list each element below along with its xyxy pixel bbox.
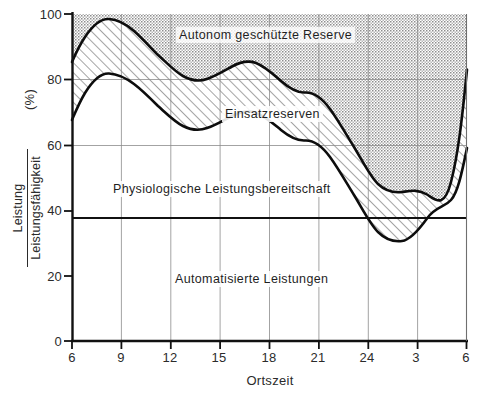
x-axis-ticks <box>72 341 467 349</box>
region-label-physiological-readiness: Physiologische Leistungsbereitschaft <box>110 181 334 197</box>
region-label-operational-reserves: Einsatzreserven <box>222 106 323 122</box>
region-label-automated-performance: Automatisierte Leistungen <box>172 271 331 287</box>
performance-curve-chart: (%) Leistung Leistungsfähigkeit 100 80 6… <box>0 0 482 396</box>
plot-canvas <box>0 0 482 396</box>
region-label-autonomous-reserve: Autonom geschützte Reserve <box>176 27 355 43</box>
y-axis-ticks <box>64 14 72 341</box>
